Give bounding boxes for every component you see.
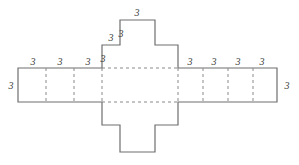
label-right-arm-end: 3 <box>285 81 290 91</box>
diagram-background <box>0 0 299 165</box>
label-left-arm-end: 3 <box>9 81 14 91</box>
label-step-lower-left: 3 <box>101 54 106 64</box>
label-right-arm-seg1-top: 3 <box>188 57 193 67</box>
label-left-arm-seg2-top: 3 <box>58 57 63 67</box>
label-right-arm-seg2-top: 3 <box>212 57 217 67</box>
figure-canvas: 3333333333333 <box>0 0 299 165</box>
net-diagram-svg <box>0 0 299 165</box>
label-top-arm-top: 3 <box>135 8 140 18</box>
label-step-riser-left: 3 <box>119 29 124 39</box>
label-step-upper-left: 3 <box>109 33 114 43</box>
label-right-arm-seg4-top: 3 <box>260 57 265 67</box>
label-left-arm-seg3-top: 3 <box>86 57 91 67</box>
label-right-arm-seg3-top: 3 <box>236 57 241 67</box>
label-left-arm-seg1-top: 3 <box>31 57 36 67</box>
